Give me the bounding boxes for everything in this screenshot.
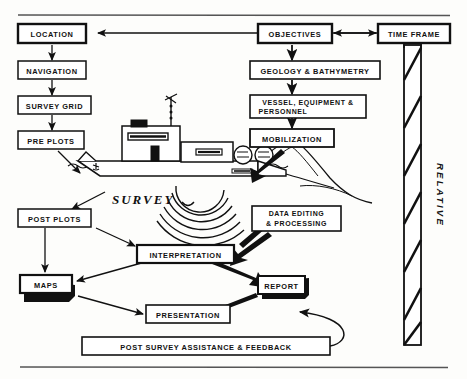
- box-survey-grid[interactable]: SURVEY GRID: [18, 96, 91, 114]
- box-presentation-label: PRESENTATION: [156, 311, 220, 320]
- survey-caption: SURVEY: [112, 192, 174, 207]
- box-post-plots[interactable]: POST PLOTS: [18, 209, 91, 227]
- vessel-bow-flare: [78, 152, 96, 161]
- box-data-editing-line2: & PROCESSING: [266, 220, 327, 227]
- survey-workflow-diagram: SURVEY RELATIVE: [0, 0, 467, 379]
- mast-dot-2: [170, 111, 173, 114]
- arrow-postplots-interpretation: [96, 228, 135, 246]
- arrow-maps-presentation: [78, 296, 143, 314]
- box-interpretation-label: INTERPRETATION: [149, 251, 221, 260]
- cable-reel-1: [234, 146, 252, 164]
- box-presentation[interactable]: PRESENTATION: [146, 305, 230, 323]
- box-post-survey-label: POST SURVEY ASSISTANCE & FEEDBACK: [120, 343, 292, 352]
- box-maps-label: MAPS: [34, 281, 58, 290]
- mast-dot-1: [170, 105, 173, 108]
- box-vessel-label-line1: VESSEL, EQUIPMENT &: [262, 99, 354, 107]
- box-data-editing-line1: DATA EDITING: [269, 210, 325, 217]
- box-location-label: LOCATION: [31, 30, 74, 39]
- relative-label: RELATIVE: [435, 163, 446, 227]
- box-objectives-label: OBJECTIVES: [269, 30, 322, 39]
- connectors-thin: [45, 45, 145, 314]
- box-time-frame-label: TIME FRAME: [388, 30, 440, 39]
- box-interpretation[interactable]: INTERPRETATION: [137, 245, 234, 263]
- deckhouse-door: [151, 146, 159, 161]
- box-navigation-label: NAVIGATION: [26, 67, 77, 76]
- sonar-arc-1: [176, 186, 224, 212]
- vessel-hull: [78, 161, 258, 176]
- arrow-interpretation-maps: [77, 262, 145, 281]
- arrow-survey-postplots: [72, 192, 105, 209]
- relative-time-bar: [404, 45, 421, 345]
- bottom-rule: [20, 367, 448, 368]
- box-vessel-equipment-personnel[interactable]: VESSEL, EQUIPMENT & PERSONNEL: [250, 95, 366, 118]
- box-post-survey-assistance[interactable]: POST SURVEY ASSISTANCE & FEEDBACK: [82, 337, 330, 355]
- box-vessel-label-line2: PERSONNEL: [259, 108, 308, 115]
- box-pre-plots[interactable]: PRE PLOTS: [18, 131, 84, 149]
- box-objectives[interactable]: OBJECTIVES: [258, 24, 332, 43]
- diagram-canvas: SURVEY RELATIVE: [0, 0, 467, 379]
- box-post-plots-label: POST PLOTS: [28, 215, 81, 224]
- box-location[interactable]: LOCATION: [18, 24, 86, 43]
- mast-dot-3: [170, 117, 173, 120]
- box-time-frame[interactable]: TIME FRAME: [378, 24, 450, 43]
- box-navigation[interactable]: NAVIGATION: [18, 61, 86, 79]
- arrow-preplots-survey: [58, 151, 80, 173]
- box-maps[interactable]: MAPS: [20, 275, 75, 302]
- box-mobilization[interactable]: MOBILIZATION: [250, 129, 334, 147]
- box-geology-label: GEOLOGY & BATHYMETRY: [260, 67, 369, 76]
- funnel: [131, 120, 147, 127]
- box-pre-plots-label: PRE PLOTS: [27, 137, 74, 146]
- box-survey-grid-label: SURVEY GRID: [26, 102, 83, 111]
- box-report-label: REPORT: [264, 282, 298, 291]
- box-geology-bathymetry[interactable]: GEOLOGY & BATHYMETRY: [250, 61, 380, 79]
- box-mobilization-label: MOBILIZATION: [262, 135, 322, 144]
- box-report[interactable]: REPORT: [258, 276, 309, 299]
- box-data-editing-processing[interactable]: DATA EDITING & PROCESSING: [252, 206, 341, 231]
- top-rule: [18, 15, 450, 16]
